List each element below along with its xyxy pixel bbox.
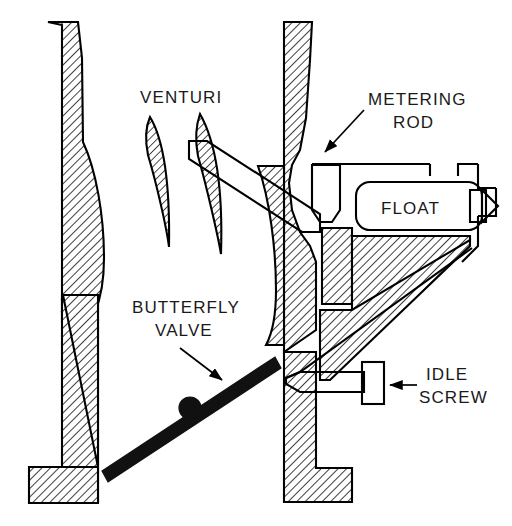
label-screw: SCREW: [419, 388, 488, 407]
venturi-blade-right: [196, 114, 221, 254]
label-venturi: VENTURI: [140, 88, 222, 107]
carburetor-cross-section-svg: VENTURI METERING ROD FLOAT BUTTERFLY VAL…: [0, 0, 512, 526]
carburetor-diagram: VENTURI METERING ROD FLOAT BUTTERFLY VAL…: [0, 0, 512, 526]
inner-fuel-passage: [322, 228, 352, 304]
label-butterfly: BUTTERFLY: [132, 298, 240, 317]
label-idle: IDLE: [426, 365, 468, 384]
butterfly-valve-plate: [102, 357, 281, 482]
label-valve: VALVE: [155, 321, 213, 340]
label-metering: METERING: [368, 90, 467, 109]
label-float: FLOAT: [381, 199, 440, 218]
butterfly-valve-leader: [180, 348, 222, 380]
left-throat-wall: [48, 22, 104, 322]
venturi-blade-left: [146, 117, 169, 247]
center-column: [258, 22, 316, 352]
label-rod: ROD: [393, 113, 434, 132]
left-base-foot: [29, 295, 98, 503]
metering-rod-leader: [325, 110, 364, 152]
